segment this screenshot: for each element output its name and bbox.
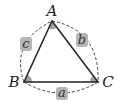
vertex-c-label: C <box>102 73 114 91</box>
vertex-b-label: B <box>7 73 19 91</box>
side-c-label: c <box>22 36 30 51</box>
triangle-abc <box>24 21 98 82</box>
vertex-a-label: A <box>45 2 58 20</box>
triangle-diagram: c b a A B C <box>0 0 119 108</box>
side-b-label: b <box>78 32 86 47</box>
side-a-label: a <box>58 85 66 100</box>
